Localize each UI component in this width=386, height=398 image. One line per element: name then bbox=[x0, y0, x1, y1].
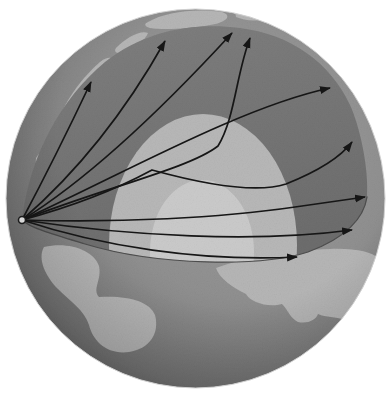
grain-overlay bbox=[0, 0, 386, 398]
figure-canvas bbox=[0, 0, 386, 398]
earth-cutaway-figure bbox=[0, 0, 386, 398]
